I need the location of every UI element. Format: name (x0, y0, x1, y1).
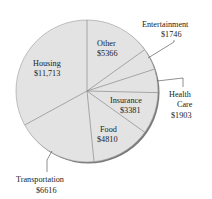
pie-chart: Other $5366 Housing $11,713 Insurance $3… (0, 0, 212, 199)
label-housing: Housing (33, 59, 61, 68)
value-health-care: $1903 (171, 111, 191, 120)
value-food: $4810 (97, 135, 117, 144)
label-insurance: Insurance (110, 96, 142, 105)
label-transportation: Transportation (16, 175, 64, 184)
value-transportation: $6616 (36, 186, 56, 195)
leader-transportation (47, 151, 52, 172)
value-entertainment: $1746 (161, 30, 181, 39)
label-health-care-2: Care (177, 100, 193, 109)
label-food: Food (100, 125, 117, 134)
label-entertainment: Entertainment (142, 20, 189, 29)
label-other: Other (97, 39, 116, 48)
value-insurance: $3381 (120, 106, 140, 115)
value-other: $5366 (97, 49, 117, 58)
label-health-care: Health (169, 90, 191, 99)
leader-health-care (157, 78, 183, 87)
value-housing: $11,713 (34, 69, 60, 78)
leader-entertainment (148, 40, 174, 58)
